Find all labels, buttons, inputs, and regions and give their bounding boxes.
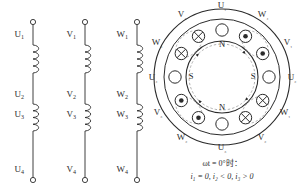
- slot-label-W: W₁: [280, 107, 291, 118]
- slot-label-U: U₁: [218, 0, 227, 11]
- stator-slot-W: [175, 47, 187, 59]
- magnetic-pole-label-s-3: S: [251, 71, 256, 81]
- coil-u-lower: [33, 104, 39, 131]
- current-out-dot-icon: [179, 98, 184, 103]
- stator-slot-V: [239, 112, 251, 124]
- stator-slot-W: [239, 30, 251, 42]
- winding-label-w-1: W1: [117, 29, 129, 40]
- caption-line-2: i₁ = 0, i₂ < 0, i₃ > 0: [190, 172, 253, 181]
- caption-block: ωt = 0°时： i₁ = 0, i₂ < 0, i₃ > 0: [190, 158, 253, 181]
- terminal-top-u: [30, 19, 35, 24]
- winding-phase-w: W1W2W3W4: [117, 19, 143, 182]
- winding-label-u-3: U3: [15, 109, 25, 120]
- coil-u-upper: [33, 45, 39, 73]
- coil-w-upper: [137, 45, 143, 73]
- stator-cross-section: U₁W₄V₁U₂W₁V₂U₃W₂V₃U₄W₃V₄NNSS: [149, 0, 297, 153]
- magnetic-pole-label-n-0: N: [219, 39, 225, 49]
- winding-phase-v: V1V2V3V4: [67, 19, 91, 182]
- winding-label-u-2: U2: [15, 89, 25, 100]
- stator-slot-W: [257, 94, 269, 106]
- slot-label-V: V₃: [154, 107, 163, 118]
- winding-label-v-4: V4: [67, 164, 77, 175]
- winding-phase-u: U1U2U3U4: [15, 19, 39, 182]
- slot-label-W: W₃: [152, 37, 163, 48]
- coil-w-lower: [137, 104, 143, 131]
- stator-slot-U: [169, 71, 181, 83]
- caption-line-1: ωt = 0°时：: [202, 158, 241, 168]
- slot-label-V: V₄: [178, 9, 187, 20]
- slot-label-V: V₂: [258, 132, 267, 143]
- winding-label-w-4: W4: [117, 164, 129, 175]
- terminal-bottom-w: [134, 177, 139, 182]
- figure-svg: U1U2U3U4V1V2V3V4W1W2W3W4 U₁W₄V₁U₂W₁V₂U₃W…: [0, 0, 302, 193]
- terminal-bottom-v: [82, 177, 87, 182]
- slot-circle: [216, 24, 228, 36]
- slot-label-U: U₂: [288, 72, 297, 83]
- winding-label-u-1: U1: [15, 29, 25, 40]
- three-phase-winding-coils: U1U2U3U4V1V2V3V4W1W2W3W4: [15, 19, 143, 182]
- winding-label-u-4: U4: [15, 164, 25, 175]
- stator-slot-V: [192, 30, 204, 42]
- terminal-top-w: [134, 19, 139, 24]
- terminal-bottom-u: [30, 177, 35, 182]
- stator-slot-U: [216, 24, 228, 36]
- coil-v-upper: [85, 45, 91, 73]
- current-out-dot-icon: [243, 34, 248, 39]
- slot-label-W: W₄: [258, 9, 269, 20]
- current-out-dot-icon: [196, 115, 201, 120]
- stator-slot-W: [192, 112, 204, 124]
- stator-slot-U: [216, 118, 228, 130]
- slot-circle: [216, 118, 228, 130]
- winding-label-v-2: V2: [67, 89, 77, 100]
- winding-label-v-3: V3: [67, 109, 77, 120]
- stator-slot-V: [257, 47, 269, 59]
- figure-canvas: U1U2U3U4V1V2V3V4W1W2W3W4 U₁W₄V₁U₂W₁V₂U₃W…: [0, 0, 302, 193]
- stator-slot-V: [175, 94, 187, 106]
- magnetic-pole-label-s-2: S: [189, 71, 194, 81]
- winding-label-w-2: W2: [117, 89, 129, 100]
- winding-label-w-3: W3: [117, 109, 129, 120]
- slot-label-V: V₁: [284, 37, 293, 48]
- slot-circle: [263, 71, 275, 83]
- winding-label-v-1: V1: [67, 29, 77, 40]
- coil-v-lower: [85, 104, 91, 131]
- current-out-dot-icon: [260, 51, 265, 56]
- slot-circle: [169, 71, 181, 83]
- magnetic-pole-label-n-1: N: [219, 102, 225, 112]
- terminal-top-v: [82, 19, 87, 24]
- stator-slot-U: [263, 71, 275, 83]
